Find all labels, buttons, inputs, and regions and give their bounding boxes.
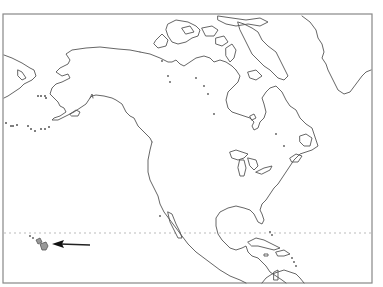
bahamas-dot-2 bbox=[271, 234, 273, 236]
arctic-island-small-2 bbox=[216, 36, 228, 46]
map-container: Outline map of North America bbox=[0, 0, 383, 287]
aleutian-dot bbox=[48, 126, 50, 128]
alaska-coastline bbox=[50, 47, 152, 142]
island-dot bbox=[167, 75, 169, 77]
aleutian-dot bbox=[30, 128, 32, 130]
boothia-peninsula bbox=[226, 44, 236, 62]
aleutian-islands bbox=[5, 95, 50, 132]
lake-superior bbox=[230, 150, 248, 160]
arctic-small-islands bbox=[159, 60, 285, 217]
aleutian-dot bbox=[40, 95, 42, 97]
hawaii-dot bbox=[32, 237, 34, 239]
southampton-island bbox=[248, 70, 262, 80]
hawaii-big-island bbox=[40, 242, 48, 250]
aleutian-dot bbox=[45, 97, 47, 99]
north-america-map bbox=[0, 0, 383, 287]
lesser-antilles-dot-3 bbox=[295, 265, 297, 267]
cook-inlet bbox=[90, 94, 93, 98]
hawaii-callout-arrow bbox=[52, 240, 90, 248]
alaska-peninsula-detail bbox=[70, 110, 80, 116]
aleutian-dot bbox=[12, 125, 14, 127]
lesser-antilles-dot-1 bbox=[291, 257, 293, 259]
island-dot bbox=[275, 133, 277, 135]
ellesmere-island bbox=[218, 16, 268, 26]
aleutian-dot bbox=[44, 128, 46, 130]
hawaii-dot bbox=[29, 235, 31, 237]
hawaii-island-small bbox=[36, 238, 42, 244]
bahamas-dot-1 bbox=[269, 231, 271, 233]
lake-erie-ontario bbox=[256, 166, 272, 174]
baffin-island bbox=[238, 22, 288, 80]
aleutian-dot bbox=[27, 125, 29, 127]
island-dot bbox=[169, 81, 171, 83]
baja-california bbox=[168, 212, 182, 238]
aleutian-dot bbox=[5, 122, 7, 124]
island-dot bbox=[207, 93, 209, 95]
island-dot bbox=[213, 113, 215, 115]
banks-island bbox=[154, 34, 168, 48]
jamaica bbox=[264, 254, 268, 256]
aleutian-dot bbox=[40, 128, 42, 130]
aleutian-dot bbox=[10, 125, 12, 127]
island-dot bbox=[195, 77, 197, 79]
aleutian-dot bbox=[44, 95, 46, 97]
arctic-island-small-1 bbox=[202, 26, 218, 36]
island-dot bbox=[203, 85, 205, 87]
aleutian-dot bbox=[37, 95, 39, 97]
arrow-shaft bbox=[60, 244, 90, 245]
arctic-island-small-3 bbox=[182, 26, 194, 34]
chukotka-coastline bbox=[4, 55, 36, 98]
lesser-antilles-dot-2 bbox=[293, 261, 295, 263]
island-dot bbox=[161, 60, 163, 62]
hawaii-islands bbox=[29, 235, 48, 250]
hispaniola bbox=[276, 250, 290, 256]
lake-michigan bbox=[238, 160, 246, 176]
aleutian-dot bbox=[16, 124, 18, 126]
island-dot bbox=[159, 215, 161, 217]
cuba bbox=[248, 238, 280, 250]
hudson-bay-and-east-coast bbox=[216, 70, 318, 283]
chukotka-peninsula bbox=[18, 70, 26, 80]
greenland-coastline bbox=[302, 16, 371, 94]
us-west-coast bbox=[148, 142, 246, 283]
victoria-island bbox=[166, 20, 200, 44]
aleutian-dot bbox=[34, 130, 36, 132]
newfoundland bbox=[300, 134, 312, 146]
lake-huron bbox=[248, 158, 258, 170]
arctic-coastline bbox=[140, 52, 236, 70]
island-dot bbox=[283, 145, 285, 147]
